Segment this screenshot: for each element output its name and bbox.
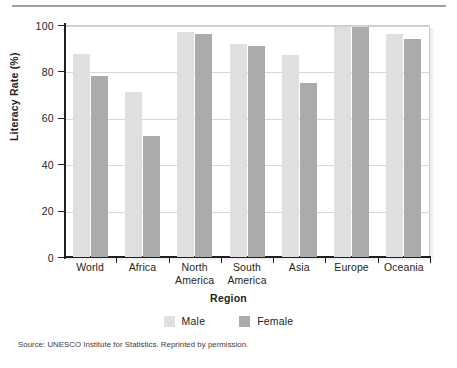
bar-north-america-male	[177, 32, 194, 257]
top-divider	[12, 5, 446, 7]
legend-label-male: Male	[182, 315, 206, 327]
y-tick-label: 80	[42, 66, 54, 78]
bar-south-america-male	[230, 44, 247, 257]
y-tick: 80	[64, 71, 65, 72]
y-tick: 100	[64, 25, 65, 26]
x-category-label: World	[64, 261, 116, 274]
x-axis-title: Region	[0, 292, 457, 304]
y-tick-mark	[58, 71, 65, 72]
x-category-label: Africa	[116, 261, 168, 274]
legend-swatch-male	[164, 316, 175, 327]
gridline	[64, 26, 429, 27]
chart-figure: 020406080100 WorldAfricaNorth AmericaSou…	[0, 0, 457, 368]
x-category-label: Oceania	[378, 261, 430, 274]
bar-europe-male	[334, 27, 351, 257]
y-tick: 0	[64, 257, 65, 258]
y-tick-mark	[58, 118, 65, 119]
legend-label-female: Female	[257, 315, 293, 327]
y-tick-label: 40	[42, 159, 54, 171]
gridline	[64, 72, 429, 73]
y-tick: 20	[64, 211, 65, 212]
x-category-label: Europe	[325, 261, 377, 274]
y-tick-label: 20	[42, 205, 54, 217]
y-tick-mark	[58, 257, 65, 258]
bar-africa-male	[125, 92, 142, 257]
y-axis-line	[64, 23, 66, 259]
bar-world-female	[91, 76, 108, 257]
bar-world-male	[73, 54, 90, 257]
gridline	[64, 165, 429, 166]
bar-asia-male	[282, 55, 299, 257]
y-tick-mark	[58, 211, 65, 212]
y-tick-label: 100	[36, 20, 54, 32]
legend-swatch-female	[239, 316, 250, 327]
y-tick: 60	[64, 118, 65, 119]
legend-item-male: Male	[164, 315, 206, 327]
bar-north-america-female	[195, 34, 212, 257]
legend-item-female: Female	[239, 315, 293, 327]
y-tick-label: 60	[42, 112, 54, 124]
x-tick-mark	[430, 257, 431, 263]
gridline	[64, 212, 429, 213]
y-tick-mark	[58, 25, 65, 26]
bar-oceania-female	[404, 39, 421, 257]
bar-europe-female	[352, 27, 369, 257]
chart-legend: MaleFemale	[0, 315, 457, 327]
gridline	[64, 119, 429, 120]
bar-africa-female	[143, 136, 160, 257]
y-tick-label: 0	[48, 252, 54, 264]
bar-south-america-female	[248, 46, 265, 257]
x-category-label: North America	[169, 261, 221, 286]
y-axis-title: Literacy Rate (%)	[8, 52, 20, 141]
x-category-label: South America	[221, 261, 273, 286]
bar-asia-female	[300, 83, 317, 257]
bar-oceania-male	[386, 34, 403, 257]
x-category-label: Asia	[273, 261, 325, 274]
y-tick: 40	[64, 164, 65, 165]
y-tick-mark	[58, 164, 65, 165]
source-note: Source: UNESCO Institute for Statistics.…	[18, 340, 248, 349]
